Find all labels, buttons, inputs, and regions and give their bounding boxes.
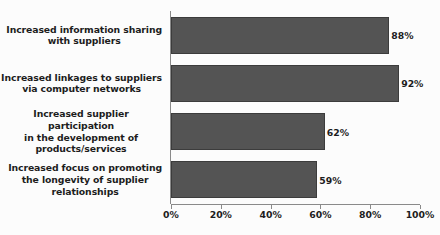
category-label-1: Increased linkages to suppliers via comp… xyxy=(1,72,162,95)
bar-row: 88% xyxy=(171,11,419,59)
plot-area: 88% 92% 62% 59% xyxy=(171,11,419,204)
bar-1: 92% xyxy=(171,65,399,102)
bar-0: 88% xyxy=(171,17,389,54)
x-axis-tick-labels: 0%20%40%60%80%100% xyxy=(171,209,420,225)
bar-3: 59% xyxy=(171,161,317,198)
category-axis-labels: Increased information sharing with suppl… xyxy=(0,11,167,204)
x-tick-label-60: 60% xyxy=(309,209,331,220)
bar-value-label-3: 59% xyxy=(319,174,341,185)
category-label-0: Increased information sharing with suppl… xyxy=(6,24,162,47)
x-tick-label-40: 40% xyxy=(259,209,281,220)
category-label-cell: Increased linkages to suppliers via comp… xyxy=(0,59,167,107)
category-label-cell: Increased information sharing with suppl… xyxy=(0,11,167,59)
bar-value-label-0: 88% xyxy=(391,30,413,41)
x-tick-label-0: 0% xyxy=(163,209,179,220)
x-tick-label-20: 20% xyxy=(210,209,232,220)
bar-value-label-1: 92% xyxy=(401,78,423,89)
horizontal-bar-chart: Increased information sharing with suppl… xyxy=(0,0,440,235)
bar-row: 59% xyxy=(171,156,419,204)
category-label-2: Increased supplier participation in the … xyxy=(0,108,162,154)
bar-row: 92% xyxy=(171,59,419,107)
bars-container: 88% 92% 62% 59% xyxy=(171,11,419,204)
x-tick-label-100: 100% xyxy=(406,209,435,220)
x-tick-label-80: 80% xyxy=(359,209,381,220)
bar-2: 62% xyxy=(171,113,325,150)
category-label-cell: Increased focus on promoting the longevi… xyxy=(0,156,167,204)
bar-row: 62% xyxy=(171,108,419,156)
category-label-3: Increased focus on promoting the longevi… xyxy=(8,162,162,197)
bar-value-label-2: 62% xyxy=(327,126,349,137)
category-label-cell: Increased supplier participation in the … xyxy=(0,108,167,156)
